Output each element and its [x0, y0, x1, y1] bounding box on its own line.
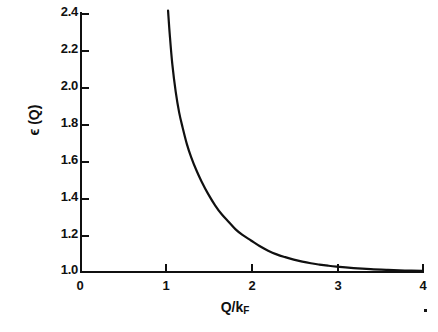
print-speck: [424, 309, 427, 312]
figure-canvas: 2.4 2.2 2.0 1.8 1.6 1.4 1.2 1.0 0 1 2 3 …: [0, 0, 438, 332]
plot-area: [0, 0, 438, 332]
data-curve-dielectric-function: [168, 11, 422, 271]
